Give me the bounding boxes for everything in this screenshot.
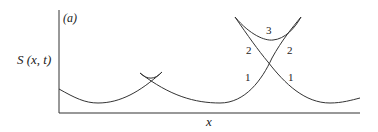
- panel-label: (a): [63, 11, 77, 26]
- branch-label-1-left: 1: [245, 71, 251, 83]
- branch-label-2-left: 2: [246, 44, 252, 56]
- branch-label-3: 3: [266, 24, 272, 36]
- curve-middle-branch: [140, 17, 301, 103]
- diagram-canvas: [0, 0, 378, 132]
- branch-label-1-right: 1: [288, 71, 294, 83]
- branch-label-2-right: 2: [287, 44, 293, 56]
- curve-left-branch: [59, 72, 162, 103]
- curve-right-branch: [235, 17, 360, 103]
- x-axis-label: x: [206, 114, 212, 130]
- y-axis-label: S (x, t): [17, 52, 51, 68]
- swallowtail-diagram: (a) S (x, t) x 3 2 2 1 1: [0, 0, 378, 132]
